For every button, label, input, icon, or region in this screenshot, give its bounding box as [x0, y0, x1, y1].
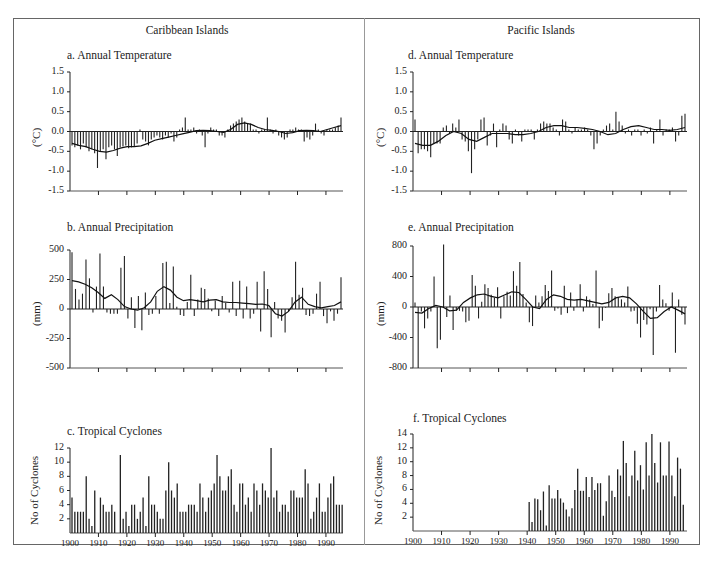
- chart-canvas: [0, 0, 711, 567]
